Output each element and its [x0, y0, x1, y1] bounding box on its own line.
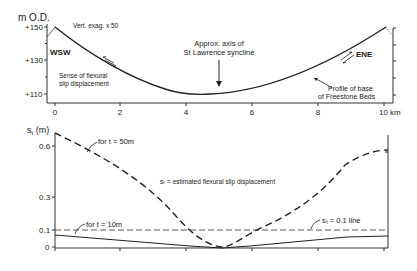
label-t50: for t = 50m	[98, 137, 134, 146]
ene-label: ENE	[356, 50, 373, 59]
legend-note: sₜ = estimated flexural slip displacemen…	[160, 178, 275, 186]
diagram-canvas: m O.D. +150 +130 +110 Vert. exag. x 50 W…	[0, 0, 417, 271]
top-y-unit: m O.D.	[18, 12, 50, 23]
x-tick-0: 0	[53, 108, 58, 117]
syncline-label-1: Approx. axis of	[194, 39, 245, 48]
vert-exag-label: Vert. exag. x 50	[73, 22, 119, 30]
tick-label-150: +150	[25, 23, 44, 32]
tick-label-0.3: 0.3	[39, 193, 51, 202]
x-tick-2: 2	[118, 108, 123, 117]
label-t10: for t = 10m	[86, 220, 122, 229]
top-panel: m O.D. +150 +130 +110 Vert. exag. x 50 W…	[18, 12, 401, 117]
tick-label-0: 0	[45, 243, 50, 252]
slip-label-1: Sense of flexural	[59, 72, 108, 79]
profile-label-2: of Freestone Beds	[318, 93, 376, 100]
slip-label-2: slip displacement	[59, 80, 109, 88]
wsw-label: WSW	[50, 48, 71, 57]
tick-label-0.6: 0.6	[39, 142, 51, 151]
tick-label-0.1: 0.1	[39, 226, 51, 235]
curve-t10	[55, 235, 388, 248]
x-tick-6: 6	[250, 108, 255, 117]
slip-arrows-right	[341, 52, 354, 63]
threshold-label: sₜ = 0.1 line	[322, 216, 360, 225]
syncline-label-2: St Lawrence syncline	[184, 48, 255, 57]
x-tick-4: 4	[184, 108, 189, 117]
x-tick-8: 8	[316, 108, 321, 117]
tick-label-110: +110	[25, 90, 43, 99]
x-tick-10: 10 km	[379, 108, 401, 117]
bottom-panel: st (m) 0.6 0.3 0.1 0 for t = 50m for t =…	[27, 125, 388, 252]
profile-label-1: Profile of base	[328, 85, 373, 92]
bottom-y-unit: st (m)	[27, 125, 49, 136]
tick-label-130: +130	[25, 56, 44, 65]
